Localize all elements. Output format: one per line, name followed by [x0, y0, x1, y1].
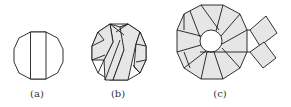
panel-b-label: (b): [111, 88, 125, 99]
panel-b-decagon: [92, 24, 146, 80]
panel-c-ring: [177, 5, 277, 79]
panel-a-decagon: [14, 32, 63, 79]
panel-c-label: (c): [213, 88, 226, 99]
panel-a-label: (a): [30, 88, 44, 99]
